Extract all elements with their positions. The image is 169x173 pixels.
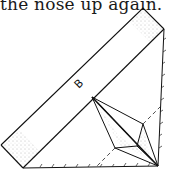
origami-diagram: B	[0, 0, 169, 173]
folded-figure	[92, 97, 158, 166]
shade-diamond	[135, 124, 150, 158]
shade-top-flap	[130, 8, 164, 42]
strip-label: B	[72, 77, 87, 92]
right-edge	[158, 29, 164, 166]
bottom-edge	[23, 166, 158, 168]
shade-strip-lower	[1, 130, 40, 168]
